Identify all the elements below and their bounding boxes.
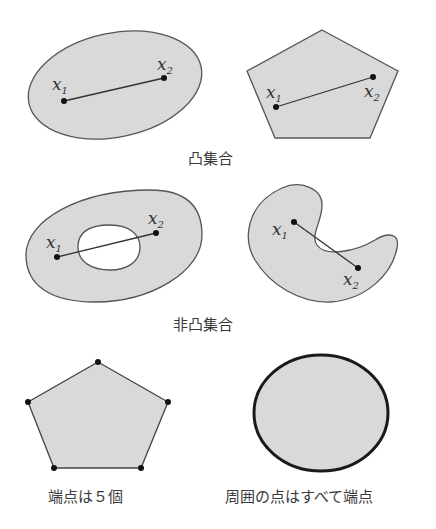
extreme-pentagon-figure (25, 359, 171, 471)
vertex-point (95, 359, 101, 365)
vertex-point (25, 399, 31, 405)
point-x2 (355, 265, 361, 271)
point-x1 (54, 254, 60, 260)
convex-pentagon-figure: x1 x2 (247, 30, 398, 138)
convexity-diagram: x1 x2 x1 x2 x1 x2 x1 x2 (0, 0, 436, 529)
circle-shape (254, 355, 388, 471)
caption-pentagon-extreme: 端点は５個 (48, 485, 123, 506)
vertex-point (51, 465, 57, 471)
point-x2 (153, 230, 159, 236)
pentagon-shape (28, 362, 168, 468)
nonconvex-crescent-figure: x1 x2 (248, 185, 397, 302)
extreme-circle-figure (254, 355, 388, 471)
caption-convex: 凸集合 (188, 147, 233, 168)
ellipse-shape (18, 16, 212, 154)
point-x1 (273, 104, 279, 110)
point-x1 (291, 219, 297, 225)
point-x1 (61, 98, 67, 104)
convex-ellipse-figure: x1 x2 (18, 16, 212, 154)
vertex-point (165, 399, 171, 405)
caption-circle-extreme: 周囲の点はすべて端点 (225, 485, 373, 506)
caption-nonconvex: 非凸集合 (173, 313, 233, 334)
vertex-point (138, 465, 144, 471)
nonconvex-annulus-figure: x1 x2 (26, 190, 202, 302)
point-x2 (370, 74, 376, 80)
